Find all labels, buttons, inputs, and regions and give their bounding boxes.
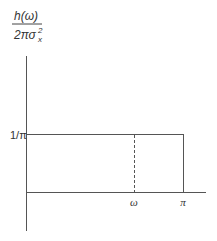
spectral-density-diagram: h(ω) 2πσ 2 x 1/π ω π — [0, 0, 217, 241]
x-tick-label-pi: π — [180, 196, 186, 208]
y-axis-label-denominator: 2πσ — [13, 28, 37, 42]
y-axis-label-numerator: h(ω) — [14, 9, 38, 23]
y-axis-label-sigma-sup: 2 — [37, 26, 43, 35]
x-tick-label-omega: ω — [130, 196, 138, 208]
y-axis-label-sigma-sub: x — [37, 35, 43, 44]
y-tick-label-one-over-pi: 1/π — [10, 129, 27, 141]
